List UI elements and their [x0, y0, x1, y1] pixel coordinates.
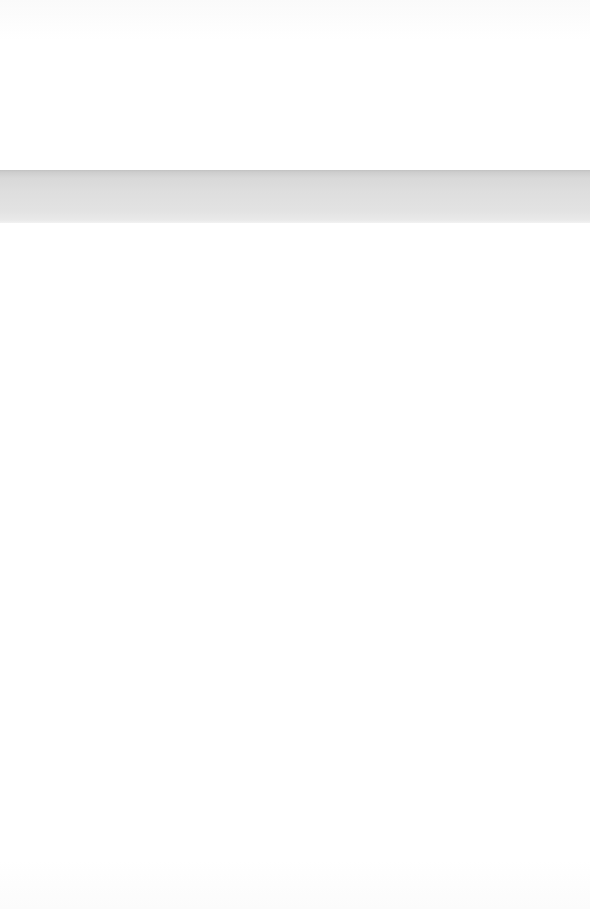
paragraph-top-line [135, 134, 527, 150]
paragraph-top-line [135, 102, 527, 118]
paragraph-top [135, 86, 527, 154]
paragraph-bottom-line [180, 224, 525, 240]
document-page [0, 0, 590, 909]
paragraph-bottom [180, 224, 525, 260]
highlight-band-line [6, 188, 584, 203]
blank-page-area [0, 270, 590, 909]
paragraph-top-line [135, 86, 527, 102]
paragraph-top-line [135, 118, 527, 134]
highlight-band-line [6, 203, 584, 218]
paragraph-bottom-line-last [180, 240, 525, 256]
highlight-band [0, 170, 590, 223]
highlight-band-text [0, 188, 590, 220]
